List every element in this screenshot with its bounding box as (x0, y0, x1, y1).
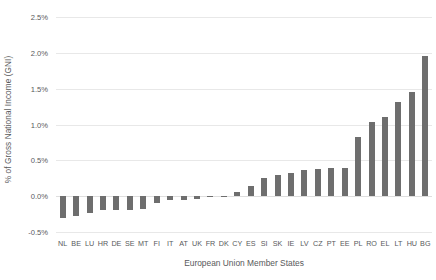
bar (315, 169, 321, 196)
bar (194, 196, 200, 199)
bar-chart: % of Gross National Income (GNI) 2.5%2.0… (0, 0, 436, 280)
bar (275, 175, 281, 197)
y-axis-tick-label: 2.5% (14, 13, 52, 22)
y-axis-tick-label: 2.0% (14, 48, 52, 57)
bar (113, 196, 119, 210)
bar (60, 196, 66, 218)
x-axis-tick-label: PT (327, 239, 336, 248)
bar (87, 196, 93, 212)
y-axis-tick-labels: 2.5%2.0%1.5%1.0%0.5%0.0%-0.5% (14, 0, 52, 280)
gridline (56, 232, 432, 233)
x-axis-tick-label: FR (206, 239, 216, 248)
x-axis-tick-label: UK (192, 239, 202, 248)
x-axis-tick-label: SI (261, 239, 268, 248)
x-axis-tick-label: FI (154, 239, 160, 248)
bar (369, 122, 375, 196)
bar (127, 196, 133, 210)
plot-area (56, 17, 432, 232)
bar (167, 196, 173, 200)
y-axis-title-label: % of Gross National Income (GNI) (5, 55, 14, 182)
x-axis-tick-label: MT (138, 239, 148, 248)
bar (288, 173, 294, 197)
bar (73, 196, 79, 215)
x-axis-tick-label: EL (381, 239, 390, 248)
x-axis-tick-label: CY (232, 239, 242, 248)
x-axis-tick-label: SE (125, 239, 135, 248)
x-axis-title: European Union Member States (56, 258, 432, 268)
x-axis-tick-label: ES (246, 239, 256, 248)
bar (301, 170, 307, 197)
x-axis-tick-label: NL (58, 239, 67, 248)
x-axis-tick-label: AT (179, 239, 188, 248)
bar-series (56, 17, 432, 232)
x-axis-tick-label: BG (420, 239, 430, 248)
y-axis-tick-label: 1.0% (14, 120, 52, 129)
x-axis-tick-labels: NLBELUHRDESEMTFIITATUKFRDKCYESSISKIELVCZ… (56, 239, 432, 253)
y-axis-tick-label: 0.5% (14, 156, 52, 165)
bar (100, 196, 106, 210)
bar (221, 196, 227, 197)
x-axis-tick-label: BE (71, 239, 81, 248)
x-axis-tick-label: CZ (313, 239, 323, 248)
x-axis-tick-label: IE (288, 239, 295, 248)
x-axis-tick-label: IT (167, 239, 173, 248)
x-axis-tick-label: RO (366, 239, 377, 248)
x-axis-tick-label: SK (273, 239, 283, 248)
x-axis-tick-label: HU (407, 239, 417, 248)
bar (382, 117, 388, 196)
x-axis-tick-label: HR (98, 239, 108, 248)
bar (140, 196, 146, 209)
bar (422, 56, 428, 196)
y-axis-tick-label: 0.0% (14, 192, 52, 201)
bar (248, 186, 254, 196)
bar (154, 196, 160, 202)
x-axis-tick-label: EE (340, 239, 350, 248)
x-axis-tick-label: LV (300, 239, 308, 248)
bar (234, 192, 240, 196)
x-axis-tick-label: LT (394, 239, 402, 248)
bar (355, 137, 361, 196)
bar (409, 92, 415, 196)
x-axis-tick-label: PL (354, 239, 363, 248)
y-axis-tick-label: -0.5% (14, 228, 52, 237)
bar (395, 102, 401, 196)
x-axis-tick-label: DK (219, 239, 229, 248)
bar (261, 178, 267, 197)
bar (207, 196, 213, 197)
bar (342, 168, 348, 197)
bar (181, 196, 187, 200)
x-axis-tick-label: DE (111, 239, 121, 248)
x-axis-tick-label: LU (85, 239, 94, 248)
y-axis-tick-label: 1.5% (14, 84, 52, 93)
bar (328, 168, 334, 197)
